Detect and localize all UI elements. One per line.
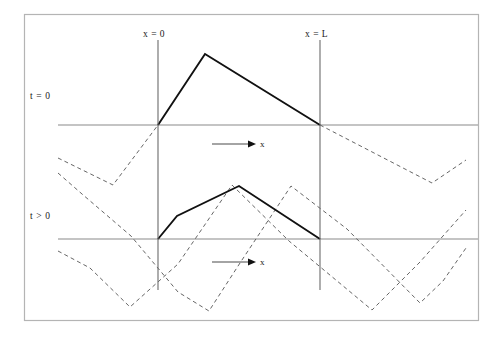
wave-diagram-figure: x = 0 x = L t = 0 t > 0 x x [0, 0, 501, 337]
label-x-axis-t1: x [260, 257, 265, 267]
x-direction-arrow-t0 [212, 141, 256, 148]
arrow-head-t0 [248, 141, 256, 148]
arrow-head-t1 [248, 259, 256, 266]
label-x-L: x = L [305, 29, 328, 39]
right-moving-half-dashed [58, 185, 466, 310]
label-t-greater-zero: t > 0 [30, 211, 51, 221]
panel-t-equals-0 [58, 54, 478, 185]
panel-t-greater-0 [58, 173, 478, 311]
label-t-equals-zero: t = 0 [30, 91, 51, 101]
figure-frame [25, 15, 479, 321]
odd-extension-right-t0 [320, 125, 466, 183]
diagram-canvas: x = 0 x = L t = 0 t > 0 x x [0, 0, 501, 337]
label-x-zero: x = 0 [143, 29, 165, 39]
x-direction-arrow-t1 [212, 259, 256, 266]
label-x-axis-t0: x [260, 139, 265, 149]
left-moving-half-dashed [58, 173, 466, 311]
initial-pulse-solid [158, 54, 320, 125]
resultant-displacement-solid [158, 186, 320, 239]
odd-extension-left-t0 [58, 125, 158, 185]
